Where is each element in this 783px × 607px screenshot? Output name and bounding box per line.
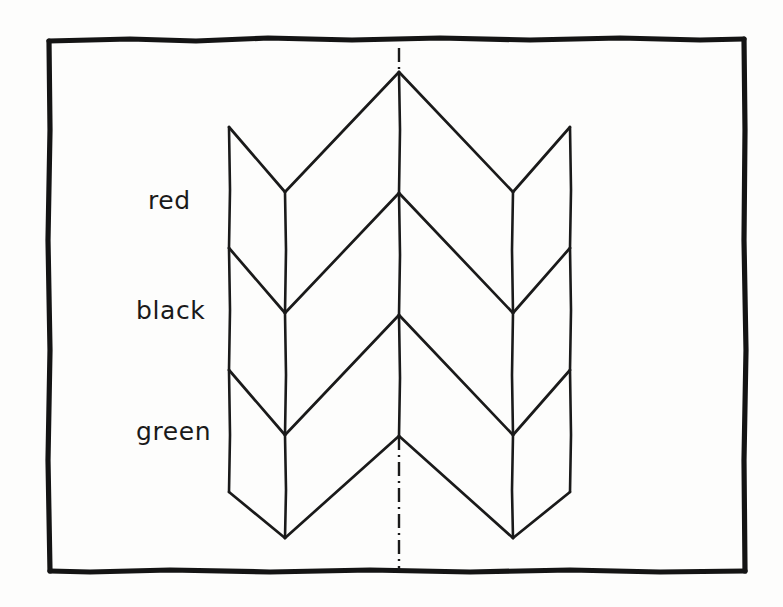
red-left-inner-diagonal	[285, 72, 399, 192]
sketch-canvas: red black green	[0, 0, 783, 607]
black-left-outer-edge	[229, 248, 230, 370]
black-right-outer-diagonal	[513, 248, 570, 313]
left-tail-inner-diagonal	[285, 436, 399, 538]
label-green: green	[136, 417, 211, 446]
green-right-outer-diagonal	[513, 370, 570, 435]
green-right-outer-edge	[570, 370, 571, 492]
black-center-vertical	[399, 193, 400, 315]
green-left-outer-edge	[229, 370, 230, 492]
black-right-inner-diagonal	[399, 193, 513, 313]
green-left-inner-diagonal	[285, 315, 399, 435]
red-right-outer-diagonal	[513, 127, 570, 192]
right-tail-inner-diagonal	[399, 436, 513, 538]
right-tail-outer-diagonal	[513, 492, 570, 538]
black-left-inner-edge	[285, 313, 286, 435]
green-right-inner-diagonal	[399, 315, 513, 435]
label-red: red	[148, 186, 191, 215]
green-center-vertical	[399, 315, 400, 436]
left-tail-outer-diagonal	[229, 492, 285, 538]
red-right-inner-diagonal	[399, 72, 513, 192]
sketch-drawing	[0, 0, 783, 607]
border-left-edge	[48, 41, 50, 571]
red-left-outer-diagonal	[229, 127, 285, 192]
border-top-edge	[49, 38, 744, 41]
black-left-inner-diagonal	[285, 193, 399, 313]
border-right-edge	[744, 39, 746, 571]
red-left-outer-edge	[229, 127, 230, 248]
border-bottom-edge	[50, 570, 745, 572]
black-left-outer-diagonal	[229, 248, 285, 313]
black-right-inner-edge	[512, 313, 513, 435]
red-center-vertical	[399, 72, 400, 193]
red-left-inner-edge	[285, 192, 286, 313]
red-right-outer-edge	[570, 127, 571, 248]
chevron-band-green	[229, 315, 571, 538]
green-left-outer-diagonal	[229, 370, 285, 435]
black-right-outer-edge	[570, 248, 571, 370]
label-black: black	[136, 296, 205, 325]
red-right-inner-edge	[512, 192, 513, 313]
green-right-inner-edge	[512, 435, 513, 538]
green-left-inner-edge	[285, 435, 286, 538]
